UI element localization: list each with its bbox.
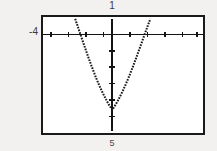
figure-screenshot: ) 1 -4 [0, 0, 217, 151]
x-axis-max-label: 5 [101, 137, 123, 149]
cropped-corner-glyph: ) [0, 0, 8, 14]
plot-canvas [43, 17, 203, 133]
plot-frame [41, 15, 205, 135]
y-axis-max-label: 1 [101, 0, 123, 13]
x-axis-min-label: -4 [18, 26, 38, 38]
